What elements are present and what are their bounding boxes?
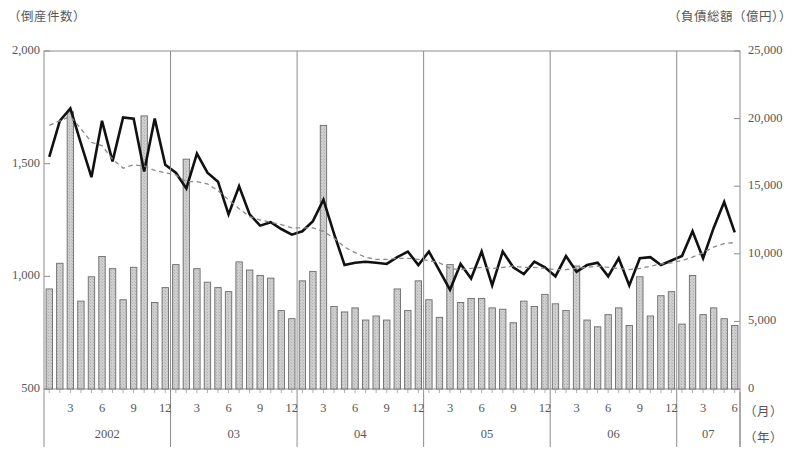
- bar: [563, 311, 569, 389]
- bar: [616, 308, 622, 389]
- bankruptcy-count-line: [49, 108, 734, 289]
- bar: [478, 298, 484, 389]
- bar: [331, 307, 337, 389]
- bar: [88, 277, 94, 389]
- bar: [46, 289, 52, 389]
- x-axis-month-label: 9: [248, 401, 272, 416]
- bar: [500, 309, 506, 389]
- bar: [194, 269, 200, 389]
- x-axis-month-label: 3: [565, 401, 589, 416]
- bar: [204, 282, 210, 389]
- bar: [457, 302, 463, 389]
- x-axis-month-label: 3: [691, 401, 715, 416]
- x-axis-month-label: 6: [343, 401, 367, 416]
- bar: [278, 311, 284, 389]
- x-axis-year-unit-label: （年）: [744, 427, 783, 446]
- bar: [700, 315, 706, 389]
- bar: [352, 308, 358, 389]
- bar: [584, 320, 590, 389]
- bar: [130, 267, 136, 389]
- x-axis-month-label: 6: [90, 401, 114, 416]
- bar: [299, 281, 305, 389]
- bankruptcy-count-moving-average-line: [49, 116, 734, 269]
- x-axis-month-label: 3: [311, 401, 335, 416]
- bar: [521, 301, 527, 389]
- x-axis-month-label: 9: [375, 401, 399, 416]
- bar: [637, 277, 643, 389]
- bar: [468, 298, 474, 389]
- bar: [225, 292, 231, 389]
- bar: [384, 320, 390, 389]
- bar: [268, 278, 274, 389]
- chart-container: （倒産件数） （負債総額（億円）） 2,0001,5001,000500 25,…: [0, 0, 798, 454]
- x-axis-month-unit-label: （月）: [744, 401, 783, 420]
- x-axis-month-label: 9: [501, 401, 525, 416]
- bar: [152, 302, 158, 389]
- bar: [594, 327, 600, 389]
- x-axis-month-label: 12: [280, 401, 304, 416]
- bar: [626, 325, 632, 389]
- bar: [405, 311, 411, 389]
- bar: [67, 112, 73, 389]
- bar: [689, 275, 695, 389]
- bar: [320, 125, 326, 389]
- x-axis-month-label: 3: [185, 401, 209, 416]
- x-axis-month-label: 6: [217, 401, 241, 416]
- bar: [99, 257, 105, 390]
- bar: [605, 315, 611, 389]
- bar: [57, 263, 63, 389]
- bar: [215, 288, 221, 389]
- x-axis-month-label: 12: [533, 401, 557, 416]
- bar: [362, 320, 368, 389]
- bar: [289, 319, 295, 389]
- bar: [246, 270, 252, 389]
- x-axis-month-label: 12: [406, 401, 430, 416]
- bar: [120, 300, 126, 389]
- bar: [341, 312, 347, 389]
- bar: [489, 308, 495, 389]
- bar: [236, 262, 242, 389]
- x-axis-month-label: 9: [122, 401, 146, 416]
- bar: [721, 319, 727, 389]
- chart-plot: [0, 0, 798, 454]
- bar: [183, 159, 189, 389]
- bar: [162, 288, 168, 389]
- bar: [679, 324, 685, 389]
- bar: [510, 323, 516, 389]
- bar: [531, 307, 537, 389]
- bar: [647, 316, 653, 389]
- bar: [373, 316, 379, 389]
- plot-frame: [44, 51, 740, 389]
- x-axis-month-label: 9: [628, 401, 652, 416]
- bar: [732, 325, 738, 389]
- bar: [426, 300, 432, 389]
- x-axis-month-label: 6: [470, 401, 494, 416]
- bar: [415, 281, 421, 389]
- x-axis-month-label: 3: [58, 401, 82, 416]
- x-axis-month-label: 6: [596, 401, 620, 416]
- x-axis-month-label: 12: [153, 401, 177, 416]
- bar: [173, 265, 179, 389]
- bar: [668, 292, 674, 389]
- bar: [710, 308, 716, 389]
- x-axis-month-label: 12: [659, 401, 683, 416]
- bar: [573, 266, 579, 389]
- bar: [310, 271, 316, 389]
- bar: [658, 296, 664, 389]
- bar: [394, 289, 400, 389]
- bar: [257, 275, 263, 389]
- bar: [78, 301, 84, 389]
- bar: [552, 304, 558, 389]
- bar: [542, 294, 548, 389]
- x-axis-month-label: 3: [438, 401, 462, 416]
- bar: [109, 269, 115, 389]
- bar: [436, 317, 442, 389]
